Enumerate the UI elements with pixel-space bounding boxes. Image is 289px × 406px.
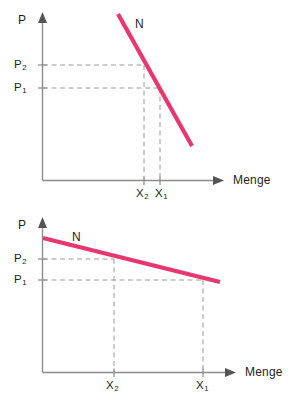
x-axis-arrowhead — [213, 176, 224, 185]
x-tick-label-x2: X2 — [106, 380, 118, 392]
flat-demand-curve-figure: P P2 P1 X2 X1 Menge N — [0, 203, 289, 406]
y-axis-arrowhead — [38, 217, 47, 228]
y-tick-label-p1: P1 — [14, 82, 26, 94]
curve-label-n: N — [135, 18, 144, 30]
x-tick-label-x1: X1 — [155, 188, 167, 200]
x-tick-label-x2: X2 — [136, 188, 148, 200]
demand-curve-n-steep — [118, 14, 192, 146]
y-axis-label: P — [18, 14, 26, 26]
y-tick-label-p1: P1 — [14, 274, 26, 286]
x-tick-label-x1: X1 — [196, 380, 208, 392]
x-axis-label: Menge — [233, 174, 271, 186]
x-axis-label: Menge — [245, 366, 283, 378]
diagram-page: P P2 P1 X2 X1 Menge N — [0, 0, 289, 406]
y-axis-label: P — [18, 219, 26, 231]
y-tick-label-p2: P2 — [14, 59, 26, 71]
curve-label-n: N — [72, 231, 81, 243]
x-axis-arrowhead — [225, 368, 236, 377]
y-tick-label-p2: P2 — [14, 253, 26, 265]
y-axis-arrowhead — [38, 12, 47, 23]
demand-curve-n-flat — [43, 238, 220, 282]
steep-demand-curve-figure: P P2 P1 X2 X1 Menge N — [0, 0, 289, 203]
